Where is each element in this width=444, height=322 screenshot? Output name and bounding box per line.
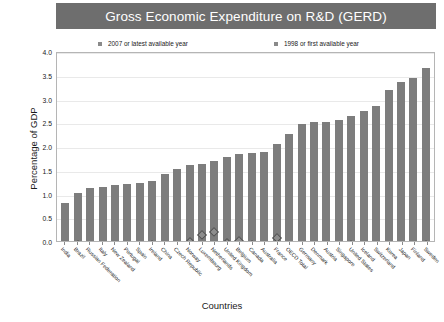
legend-item-1998: 1998 or first available year — [274, 40, 359, 47]
bar[interactable] — [235, 154, 243, 241]
bar[interactable] — [61, 203, 69, 241]
bar-group[interactable] — [258, 53, 270, 241]
bar-group[interactable] — [159, 53, 171, 241]
x-axis-category-labels: IndiaBrazilRussian FederationItalyNew Ze… — [56, 246, 435, 294]
bar-group[interactable] — [333, 53, 345, 241]
bar-group[interactable] — [96, 53, 108, 241]
x-label-slot: Australia — [258, 246, 271, 294]
bar-group[interactable] — [407, 53, 419, 241]
x-label-slot: France — [271, 246, 284, 294]
bar[interactable] — [248, 153, 256, 241]
bar[interactable] — [148, 181, 156, 241]
bar-group[interactable] — [109, 53, 121, 241]
bar[interactable] — [111, 185, 119, 241]
x-label-slot: Brazil — [71, 246, 84, 294]
bar-group[interactable] — [134, 53, 146, 241]
bar-group[interactable] — [146, 53, 158, 241]
x-label-slot: Singapore — [333, 246, 346, 294]
bar-group[interactable] — [308, 53, 320, 241]
bar[interactable] — [310, 122, 318, 241]
bar-group[interactable] — [358, 53, 370, 241]
bar-group[interactable] — [345, 53, 357, 241]
bar-group[interactable] — [221, 53, 233, 241]
bar[interactable] — [186, 165, 194, 241]
bar-group[interactable] — [208, 53, 220, 241]
bar-group[interactable] — [295, 53, 307, 241]
data-point-marker[interactable] — [197, 230, 206, 239]
bar-group[interactable] — [196, 53, 208, 241]
bar-group[interactable] — [84, 53, 96, 241]
bar-group[interactable] — [283, 53, 295, 241]
bar[interactable] — [409, 78, 417, 241]
data-point-marker[interactable] — [210, 227, 219, 236]
bar[interactable] — [223, 157, 231, 241]
bar[interactable] — [136, 183, 144, 241]
bar[interactable] — [335, 120, 343, 241]
bar[interactable] — [298, 124, 306, 241]
bar[interactable] — [385, 90, 393, 241]
bar[interactable] — [99, 187, 107, 241]
x-label-slot: United States — [346, 246, 359, 294]
bar-group[interactable] — [233, 53, 245, 241]
x-label-slot: China — [158, 246, 171, 294]
x-label-slot: Russian Federation — [83, 246, 96, 294]
x-label-slot: New Zealand — [108, 246, 121, 294]
bar[interactable] — [161, 174, 169, 241]
y-tick-label: 2.0 — [43, 144, 52, 151]
y-tick-label: 1.0 — [43, 191, 52, 198]
bar[interactable] — [422, 68, 430, 241]
bar[interactable] — [285, 134, 293, 241]
legend-swatch-icon-2007 — [98, 42, 102, 46]
bar-group[interactable] — [246, 53, 258, 241]
y-tick-label: 0.5 — [43, 215, 52, 222]
x-label-slot: Czech Republic — [171, 246, 184, 294]
bar[interactable] — [397, 82, 405, 241]
x-tick — [171, 242, 184, 245]
bar[interactable] — [372, 106, 380, 241]
x-tick — [346, 242, 359, 245]
y-tick-label: 1.5 — [43, 167, 52, 174]
bar-group[interactable] — [59, 53, 71, 241]
x-label-slot: Iceland — [358, 246, 371, 294]
x-label-slot: Japan — [396, 246, 409, 294]
x-tick — [208, 242, 221, 245]
bar-group[interactable] — [171, 53, 183, 241]
bar[interactable] — [273, 144, 281, 241]
y-tick-label: 2.5 — [43, 120, 52, 127]
bar-group[interactable] — [420, 53, 432, 241]
x-tick — [83, 242, 96, 245]
y-tick-label: 3.0 — [43, 96, 52, 103]
bar-group[interactable] — [395, 53, 407, 241]
x-tick — [296, 242, 309, 245]
x-tick — [58, 242, 71, 245]
bar-group[interactable] — [183, 53, 195, 241]
bar[interactable] — [322, 122, 330, 241]
bar[interactable] — [198, 164, 206, 241]
bar-group[interactable] — [320, 53, 332, 241]
bar-group[interactable] — [270, 53, 282, 241]
bar-group[interactable] — [382, 53, 394, 241]
bar[interactable] — [123, 184, 131, 241]
x-label-slot: Switzerland — [371, 246, 384, 294]
bar[interactable] — [74, 193, 82, 241]
x-axis-ticks — [56, 242, 435, 245]
x-label-slot: Korea — [383, 246, 396, 294]
bar[interactable] — [260, 152, 268, 241]
bar[interactable] — [173, 169, 181, 241]
data-point-marker[interactable] — [272, 233, 281, 242]
x-tick — [371, 242, 384, 245]
chart-title-banner: Gross Economic Expenditure on R&D (GERD) — [56, 3, 436, 29]
x-tick — [158, 242, 171, 245]
bar[interactable] — [210, 161, 218, 241]
x-label-slot: Finland — [408, 246, 421, 294]
bar-group[interactable] — [71, 53, 83, 241]
plot-area — [56, 52, 435, 242]
bar-group[interactable] — [370, 53, 382, 241]
bar-group[interactable] — [121, 53, 133, 241]
bar[interactable] — [360, 111, 368, 241]
x-tick — [333, 242, 346, 245]
x-label-slot: Portugal — [121, 246, 134, 294]
bar[interactable] — [86, 188, 94, 241]
bar[interactable] — [347, 116, 355, 241]
x-label-slot: Austria — [321, 246, 334, 294]
